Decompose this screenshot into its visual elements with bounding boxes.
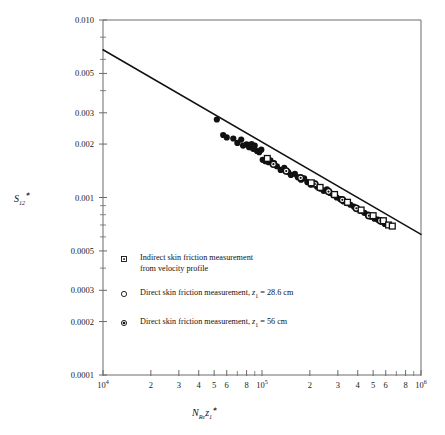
open-circle-icon [118,288,134,300]
y-axis-tick-labels: 0.0100.0050.0030.0020.0010.00050.00030.0… [71,15,94,380]
x-label-star: ∗ [212,405,218,412]
figure-container: 0.0100.0050.0030.0020.0010.00050.00030.0… [0,0,445,435]
dot-circle-icon [118,317,134,329]
y-axis-ticks [99,20,107,375]
y-tick-label: 0.005 [75,68,94,78]
x-label-one: 1 [209,413,212,420]
x-axis-label: NRez1∗ [190,400,300,428]
x-tick-label: 3 [177,380,181,390]
legend-item-direct-286: Direct skin friction measurement, z1 = 2… [118,287,293,302]
x-tick-label: 8 [244,380,248,390]
y-tick-label: 0.0001 [71,370,94,380]
legend-56-textB: = 56 cm [258,317,287,326]
legend-286-textA: Direct skin friction measurement, [140,288,252,297]
x-axis-ticks [103,370,421,376]
svg-text:S12∗: S12∗ [14,190,31,206]
y-tick-label: 0.003 [75,108,94,118]
x-tick-label: 6 [384,380,388,390]
y-axis-label: S12∗ [12,186,72,210]
open-square-icon [118,253,134,265]
y-tick-label: 0.002 [75,139,94,149]
legend-item-indirect: Indirect skin friction measurement from … [118,252,293,274]
y-label-star: ∗ [25,190,31,197]
x-tick-label: 3 [336,380,340,390]
x-tick-label: 2 [308,380,312,390]
legend-label-direct-286: Direct skin friction measurement, z1 = 2… [140,287,293,302]
y-tick-label: 0.010 [75,15,94,25]
y-tick-label: 0.0005 [71,246,94,256]
x-tick-label: 2 [149,380,153,390]
legend-label-indirect-line2: from velocity profile [140,263,253,274]
scatter-plot: 0.0100.0050.0030.0020.0010.00050.00030.0… [0,0,445,435]
legend-286-textB: = 28.6 cm [258,288,293,297]
legend-label-indirect-line1: Indirect skin friction measurement [140,252,253,263]
svg-text:NRez1∗: NRez1∗ [191,405,218,420]
legend-56-textA: Direct skin friction measurement, [140,317,252,326]
x-tick-label: 5 [212,380,216,390]
legend-label-direct-56: Direct skin friction measurement, z1 = 5… [140,316,287,331]
legend: Indirect skin friction measurement from … [118,252,293,330]
y-tick-label: 0.0002 [71,317,94,327]
y-tick-label: 0.001 [75,193,94,203]
y-tick-label: 0.0003 [71,285,94,295]
x-tick-label: 5 [371,380,375,390]
x-tick-label: 8 [403,380,407,390]
x-tick-label: 4 [197,380,202,390]
x-tick-label: 4 [356,380,361,390]
legend-item-direct-56: Direct skin friction measurement, z1 = 5… [118,316,293,331]
y-label-sub: 12 [19,199,25,206]
x-tick-label: 6 [225,380,229,390]
